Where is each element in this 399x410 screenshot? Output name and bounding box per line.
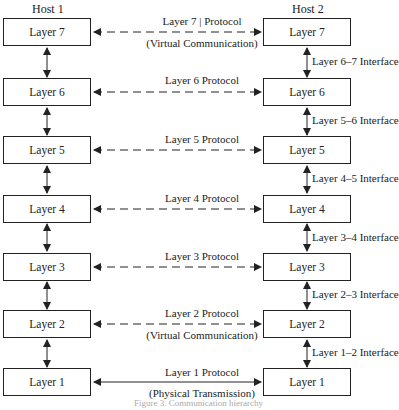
layer-6-protocol-label: Layer 6 Protocol (112, 74, 292, 86)
figure-caption: Figure 3. Communication hierarchy (0, 398, 397, 408)
host1-layer-6-box: Layer 6 (3, 78, 91, 106)
host1-layer-7-box: Layer 7 (3, 18, 91, 46)
layer-1-protocol-label: Layer 1 Protocol (112, 366, 292, 378)
host1-layer-5-box: Layer 5 (3, 136, 91, 164)
interface-3-4-label: Layer 3–4 Interface (312, 231, 399, 243)
host1-layer-4-box: Layer 4 (3, 195, 91, 223)
layer-4-protocol-label: Layer 4 Protocol (112, 192, 292, 204)
interface-2-3-label: Layer 2–3 Interface (312, 288, 399, 300)
host1-layer-2-box: Layer 2 (3, 310, 91, 338)
layer-7-protocol-label: Layer 7 | Protocol (112, 15, 292, 27)
interface-4-5-label: Layer 4–5 Interface (312, 172, 399, 184)
layer-2-subtitle: (Virtual Communication) (112, 329, 292, 341)
host1-layer-1-box: Layer 1 (3, 368, 91, 396)
interface-1-2-label: Layer 1–2 Interface (312, 346, 399, 358)
layer-5-protocol-label: Layer 5 Protocol (112, 133, 292, 145)
host1-layer-3-box: Layer 3 (3, 253, 91, 281)
interface-6-7-label: Layer 6–7 Interface (312, 55, 399, 67)
layer-2-protocol-label: Layer 2 Protocol (112, 307, 292, 319)
layer-3-protocol-label: Layer 3 Protocol (112, 250, 292, 262)
layer-7-subtitle: (Virtual Communication) (112, 37, 292, 49)
interface-5-6-label: Layer 5–6 Interface (312, 114, 399, 126)
